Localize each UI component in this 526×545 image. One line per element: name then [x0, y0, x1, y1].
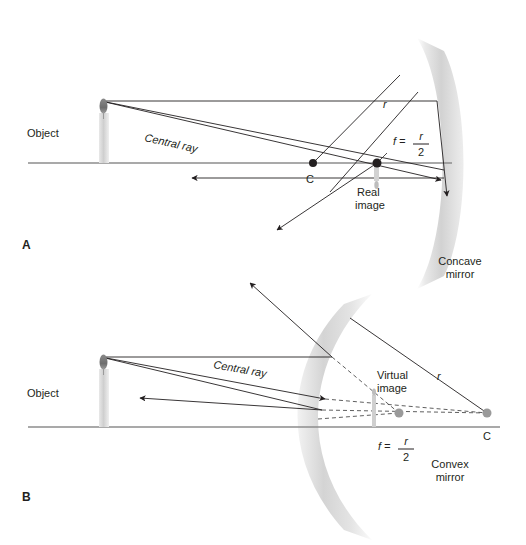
focal-point-b: [395, 409, 404, 418]
virtual-image-flame: [372, 389, 376, 396]
object-candle-body-a: [99, 113, 109, 163]
object-label-b: Object: [27, 387, 59, 399]
real-image-label-line2: image: [355, 199, 385, 211]
object-flame-b: [100, 355, 108, 370]
center-of-curvature-label-b: C: [483, 430, 491, 442]
mirror-ray-diagram: Object Central ray r C f = r 2 Real imag…: [0, 0, 526, 545]
object-flame-a: [100, 99, 108, 114]
concave-mirror-label-line2: mirror: [446, 268, 475, 280]
concave-mirror-label-line1: Concave: [438, 255, 481, 267]
center-of-curvature-label-a: C: [306, 173, 314, 185]
focal-denominator-a: 2: [418, 146, 424, 158]
panel-letter-b: B: [22, 490, 31, 504]
focal-eq-lhs-b: f =: [378, 440, 391, 452]
focal-eq-lhs-a: f =: [393, 135, 406, 147]
center-of-curvature-point-a: [309, 159, 317, 167]
convex-mirror-label-line2: mirror: [436, 471, 465, 483]
virtual-image-label-line2: image: [377, 382, 407, 394]
object-candle-body-b: [99, 369, 109, 427]
focal-denominator-b: 2: [403, 451, 409, 463]
convex-mirror-label-line1: Convex: [431, 458, 469, 470]
virtual-image-candle: [372, 395, 376, 427]
panel-letter-a: A: [22, 238, 31, 252]
center-of-curvature-point-b: [483, 409, 492, 418]
virtual-image-label-line1: Virtual: [377, 369, 408, 381]
real-image-label-line1: Real: [357, 186, 380, 198]
object-label-a: Object: [27, 127, 59, 139]
